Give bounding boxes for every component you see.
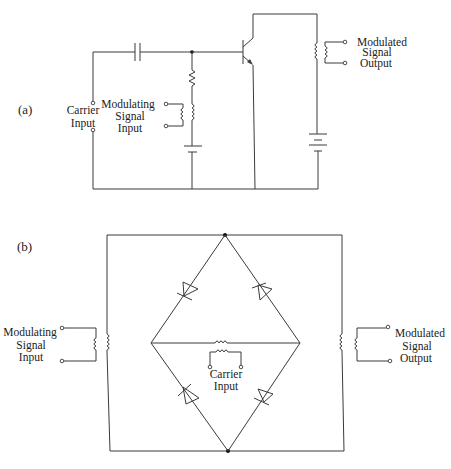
output-transformer-a-symbol	[315, 14, 347, 134]
modulating-transformer-symbol	[164, 102, 194, 146]
bias-resistor-symbol	[189, 52, 195, 104]
npn-transistor-symbol	[243, 14, 317, 189]
modulated-output-terminal-top	[343, 40, 347, 44]
coupling-capacitor-symbol	[135, 43, 192, 61]
panel-b: (b) Modulating Signal Input	[3, 233, 445, 453]
carrier-input-b-label-line1: Carrier	[210, 368, 243, 380]
supply-battery-symbol	[309, 134, 327, 189]
modulated-output-label-line3: Output	[360, 57, 393, 70]
modulating-input-b-terminal-bottom	[60, 359, 64, 363]
carrier-input-terminal-top	[91, 101, 95, 105]
carrier-transformer-symbol	[151, 341, 300, 369]
panel-b-label: (b)	[17, 239, 32, 254]
diode-top-left-symbol	[177, 282, 198, 300]
carrier-input-terminal-bottom	[91, 128, 95, 132]
modulating-input-terminal-bottom	[164, 124, 168, 128]
carrier-input-b-label-line2: Input	[214, 380, 239, 393]
modulated-output-b-terminal-bottom	[388, 359, 392, 363]
modulator-circuits-figure: (a) Carrier Input	[0, 0, 451, 469]
panel-a: (a) Carrier Input	[18, 14, 407, 189]
modulating-input-terminal-top	[164, 102, 168, 106]
carrier-input-label-line1: Carrier	[67, 104, 100, 116]
modulating-input-b-terminal-top	[60, 326, 64, 330]
modulating-input-b-label-line1: Modulating	[3, 326, 57, 339]
output-transformer-b-symbol	[340, 325, 392, 363]
bias-battery-symbol	[184, 146, 202, 189]
modulated-output-b-label-line1: Modulated	[395, 327, 445, 339]
modulated-output-terminal-bottom	[343, 61, 347, 65]
modulated-output-b-label-line3: Output	[400, 352, 433, 365]
modulating-input-label-line3: Input	[118, 122, 143, 135]
outer-loop-wiring	[107, 235, 344, 451]
modulating-input-b-label-line3: Input	[19, 351, 44, 364]
panel-a-label: (a)	[18, 102, 32, 117]
diode-top-right-symbol	[252, 283, 272, 300]
diode-bottom-left-symbol	[178, 384, 199, 404]
input-transformer-b-symbol	[60, 326, 109, 363]
modulated-output-b-terminal-top	[386, 325, 390, 329]
